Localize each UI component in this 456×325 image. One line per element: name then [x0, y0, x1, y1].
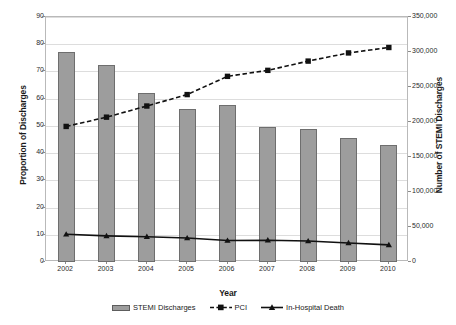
pci-marker: [144, 103, 149, 108]
legend-dashed-line-icon: [210, 303, 232, 312]
y-tick-label-left: 90: [10, 12, 44, 19]
legend-solid-line-icon: [261, 303, 283, 312]
pci-marker: [346, 50, 351, 55]
legend-item[interactable]: PCI: [210, 303, 248, 312]
line-series-layer: [46, 17, 409, 262]
pci-marker: [63, 124, 68, 129]
legend-label: In-Hospital Death: [286, 303, 344, 312]
x-tick-label: 2002: [43, 265, 87, 272]
x-tick-label: 2010: [366, 265, 410, 272]
pci-marker: [104, 114, 109, 119]
y-tick-label-left: 40: [10, 148, 44, 155]
chart-figure: Proportion of Discharges Number of STEMI…: [0, 0, 456, 325]
legend-item[interactable]: STEMI Discharges: [112, 303, 196, 312]
x-tick-label: 2003: [84, 265, 128, 272]
y-tick-label-right: 200,000: [412, 117, 456, 124]
x-tick-label: 2009: [326, 265, 370, 272]
y-tick-label-left: 80: [10, 39, 44, 46]
pci-markers: [63, 45, 391, 129]
y-tick-label-right: 350,000: [412, 12, 456, 19]
y-tickmark-left: [42, 261, 45, 262]
pci-line: [66, 47, 389, 126]
figure-caption: [0, 318, 456, 325]
y-tick-label-left: 50: [10, 121, 44, 128]
x-tick-label: 2006: [205, 265, 249, 272]
plot-area: [45, 16, 408, 261]
legend-label: STEMI Discharges: [133, 303, 196, 312]
legend-label: PCI: [235, 303, 248, 312]
legend-bar-swatch-icon: [112, 305, 130, 311]
y-tick-label-left: 30: [10, 175, 44, 182]
x-tick-label: 2008: [285, 265, 329, 272]
legend-item[interactable]: In-Hospital Death: [261, 303, 344, 312]
in-hospital-death-markers: [63, 231, 392, 247]
y-tick-label-left: 70: [10, 66, 44, 73]
x-tick-label: 2004: [124, 265, 168, 272]
pci-marker: [386, 45, 391, 50]
y-tick-label-right: 300,000: [412, 47, 456, 54]
pci-marker: [225, 74, 230, 79]
y-tick-label-left: 10: [10, 230, 44, 237]
y-tick-label-right: 250,000: [412, 82, 456, 89]
y-tick-label-left: 20: [10, 203, 44, 210]
y-tick-label-left: 60: [10, 94, 44, 101]
y-tick-label-right: 0: [412, 257, 456, 264]
pci-marker: [184, 92, 189, 97]
y-tick-label-left: 0: [10, 257, 44, 264]
x-tick-label: 2007: [245, 265, 289, 272]
y-tick-label-right: 100,000: [412, 187, 456, 194]
x-tick-label: 2005: [164, 265, 208, 272]
pci-marker: [305, 58, 310, 63]
chart-legend: STEMI DischargesPCIIn-Hospital Death: [0, 303, 456, 312]
x-axis-title: Year: [0, 288, 456, 298]
y-tick-label-right: 150,000: [412, 152, 456, 159]
pci-marker: [265, 68, 270, 73]
y-tick-label-right: 50,000: [412, 222, 456, 229]
y-axis-title-left: Proportion of Discharges: [18, 65, 28, 205]
